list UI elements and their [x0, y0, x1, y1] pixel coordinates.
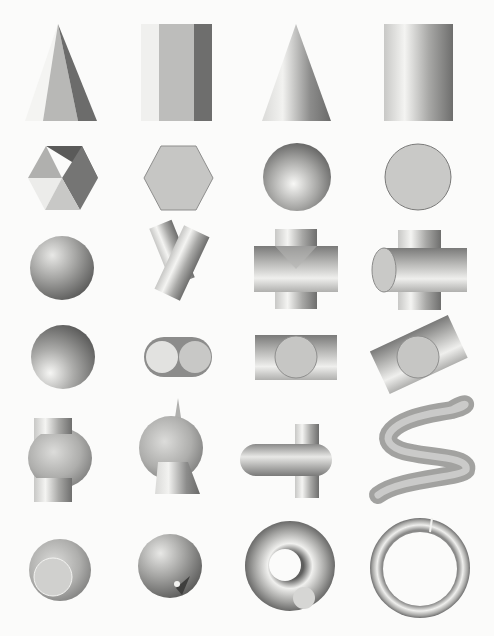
sphere-with-cone-hole — [138, 534, 202, 598]
cone — [262, 24, 331, 121]
capsule-through-rod — [240, 424, 332, 498]
sphere — [30, 236, 94, 300]
twin-cylinder-end-view — [144, 337, 212, 377]
torus-with-cut — [245, 521, 335, 611]
cylinder-cross-end-view — [372, 230, 467, 310]
sphere-lit-below — [31, 325, 95, 389]
sphere-on-cone-with-spike — [139, 398, 203, 494]
cylinder-with-end-disc — [255, 335, 337, 380]
serpentine-tube — [378, 404, 466, 495]
prism-top-view — [144, 146, 213, 210]
cylinder — [384, 24, 453, 121]
prism — [141, 24, 212, 121]
geometric-solids-plate — [0, 0, 494, 636]
crossed-cylinders — [149, 220, 209, 301]
pyramid — [25, 24, 97, 121]
sphere-with-cylinder-end — [29, 539, 91, 601]
cylinder-top-view — [385, 144, 451, 210]
cone-top-view — [263, 143, 331, 211]
sphere-pierced-by-cylinder — [28, 418, 92, 502]
tilted-cylinder-with-end-disc — [370, 315, 468, 394]
pyramid-top-view — [28, 146, 98, 210]
ring — [370, 518, 470, 618]
cylinder-cross — [254, 229, 338, 309]
